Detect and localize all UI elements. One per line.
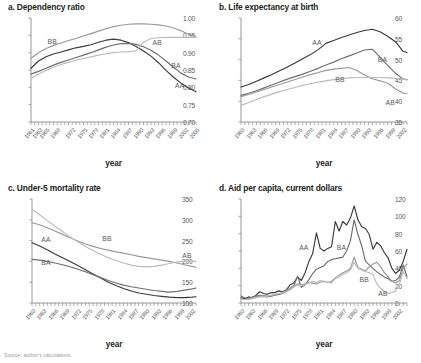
series-label-AB: AB <box>153 39 162 46</box>
x-axis-title: year <box>32 340 196 349</box>
x-axis-title: year <box>241 159 407 168</box>
series-label-BA: BA <box>378 56 387 63</box>
series-label-AB: AB <box>182 252 191 259</box>
series-label-BA: BA <box>171 62 180 69</box>
series-line-BB <box>32 223 196 268</box>
figure-panel-grid: a. Dependency ratio0.700.750.800.850.900… <box>0 0 421 363</box>
chart-panel-a: a. Dependency ratio0.700.750.800.850.900… <box>0 0 210 181</box>
series-label-AB: AB <box>378 290 387 297</box>
series-label-BB: BB <box>48 38 57 45</box>
series-label-AA: AA <box>312 39 321 46</box>
figure-footnote: Source: author's calculations. <box>4 352 72 358</box>
x-axis-title: year <box>241 340 407 349</box>
series-label-AB: AB <box>386 99 395 106</box>
series-label-AA: AA <box>299 244 308 251</box>
series-label-BB: BB <box>360 276 369 283</box>
x-axis-title: year <box>31 159 196 168</box>
chart-panel-c: c. Under-5 mortality rate100150200250300… <box>0 181 210 362</box>
chart-panel-d: d. Aid per capita, current dollars020406… <box>211 181 421 362</box>
series-line-BA <box>241 220 407 299</box>
series-label-AA: AA <box>175 82 184 89</box>
series-label-BA: BA <box>41 259 50 266</box>
series-label-BB: BB <box>102 235 111 242</box>
series-line-BB <box>241 68 407 97</box>
series-line-BA <box>32 259 196 292</box>
series-line-AB <box>32 209 196 266</box>
series-label-AA: AA <box>41 236 50 243</box>
series-line-AA <box>241 206 407 299</box>
chart-panel-b: b. Life expectancy at birth3540455055601… <box>211 0 421 181</box>
series-label-BA: BA <box>337 244 346 251</box>
series-label-BB: BB <box>335 76 344 83</box>
